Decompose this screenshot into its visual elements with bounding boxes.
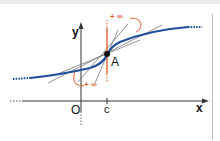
x-axis-label: x xyxy=(196,101,203,115)
origin-label: O xyxy=(71,103,80,117)
point-a-marker xyxy=(104,51,110,57)
point-a-label: A xyxy=(111,55,119,69)
c-label: c xyxy=(104,103,110,115)
upper-limit-label: + ∞ xyxy=(110,12,123,21)
graph-canvas xyxy=(0,0,220,141)
upper-limit-arc xyxy=(130,18,141,32)
lower-limit-arc xyxy=(74,71,84,86)
lower-limit-label: + ∞ xyxy=(84,80,97,89)
y-axis-label: y xyxy=(72,25,79,39)
